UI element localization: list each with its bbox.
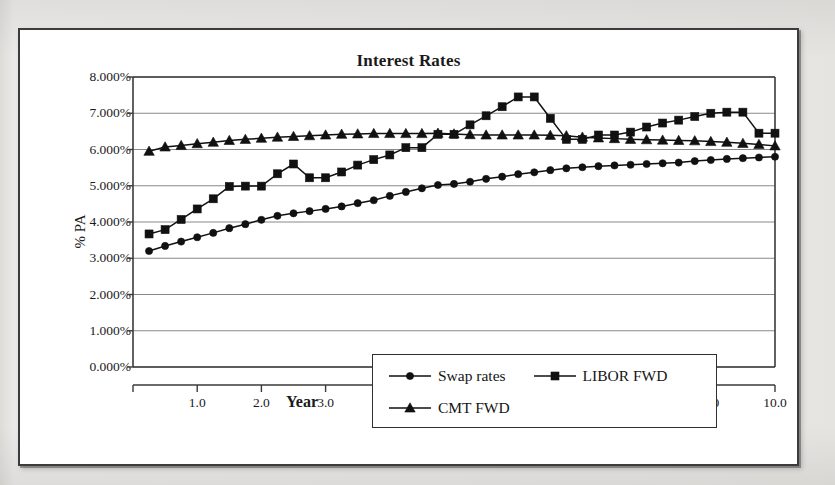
data-point-marker [241,182,249,190]
data-point-marker [370,197,377,204]
data-point-marker [515,171,522,178]
data-point-marker [531,169,538,176]
data-point-marker [739,108,747,116]
data-point-marker [514,93,522,101]
data-point-marker [755,154,762,161]
data-point-marker [402,144,410,152]
data-point-marker [434,181,441,188]
data-point-marker [242,221,249,228]
data-point-marker [145,247,152,254]
data-point-marker [675,159,682,166]
data-point-marker [482,112,490,120]
data-point-marker [739,155,746,162]
data-point-marker [290,160,298,168]
data-point-marker [466,178,473,185]
data-point-marker [707,109,715,117]
data-point-marker [386,151,394,159]
data-point-marker [723,155,730,162]
data-point-marker [530,93,538,101]
data-point-marker [257,182,265,190]
legend-label: LIBOR FWD [583,367,668,385]
data-point-marker [210,229,217,236]
series-cmt-fwd [144,128,780,155]
data-point-marker [418,185,425,192]
data-point-marker [290,210,297,217]
data-point-marker [306,174,314,182]
data-point-marker [338,168,346,176]
data-point-marker [659,119,667,127]
data-point-marker [370,156,378,164]
data-point-marker [402,188,409,195]
legend-symbol-circle [387,367,433,385]
data-point-marker [595,163,602,170]
data-point-marker [225,182,233,190]
data-point-marker [194,234,201,241]
data-point-marker [258,216,265,223]
data-point-marker [691,113,699,121]
data-point-marker [322,174,330,182]
data-point-marker [178,238,185,245]
data-point-marker [643,123,651,131]
data-point-marker [498,103,506,111]
data-point-marker [450,180,457,187]
data-point-marker [643,160,650,167]
data-point-marker [386,192,393,199]
data-point-marker [691,158,698,165]
data-point-marker [771,153,778,160]
legend-item-cmt-fwd[interactable]: CMT FWD [387,399,510,417]
series-line [149,157,775,251]
data-point-marker [354,161,362,169]
data-point-marker [611,162,618,169]
data-point-marker [209,195,217,203]
legend-label: Swap rates [438,367,506,385]
data-point-marker [418,144,426,152]
data-point-marker [659,160,666,167]
data-point-marker [161,226,169,234]
legend-item-swap-rates[interactable]: Swap rates [387,367,506,385]
data-point-marker [483,175,490,182]
data-point-marker [499,173,506,180]
data-point-marker [627,161,634,168]
series-swap-rates [145,153,778,254]
data-point-marker [579,164,586,171]
legend-item-libor-fwd[interactable]: LIBOR FWD [532,367,668,385]
data-point-marker [273,170,281,178]
data-point-marker [755,129,763,137]
data-point-marker [707,156,714,163]
chart-canvas: Interest Rates % PA Year 8.000%7.000%6.0… [27,37,790,457]
legend-symbol-square [532,367,578,385]
data-point-marker [193,205,201,213]
legend-symbol-triangle [387,399,433,417]
legend-row: Swap ratesLIBOR FWD [387,361,707,391]
series-libor-fwd [145,93,779,238]
data-point-marker [466,121,474,129]
data-point-marker [354,200,361,207]
data-point-marker [306,208,313,215]
data-point-marker [771,129,779,137]
data-point-marker [177,215,185,223]
data-point-marker [546,114,554,122]
chart-frame: Interest Rates % PA Year 8.000%7.000%6.0… [18,28,799,466]
data-point-marker [145,230,153,238]
data-point-marker [547,167,554,174]
data-point-marker [322,205,329,212]
data-point-marker [162,242,169,249]
data-point-marker [226,225,233,232]
legend-row: CMT FWD [387,393,707,423]
data-point-marker [338,203,345,210]
legend-label: CMT FWD [438,399,510,417]
chart-legend: Swap ratesLIBOR FWDCMT FWD [372,354,717,428]
data-point-marker [723,108,731,116]
data-point-marker [274,212,281,219]
data-point-marker [675,116,683,124]
data-point-marker [563,165,570,172]
